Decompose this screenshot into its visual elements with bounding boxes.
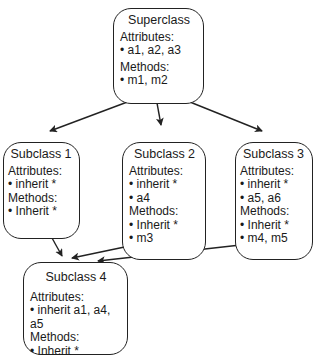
attribute-item: a4: [129, 192, 200, 206]
method-item: m4, m5: [240, 232, 307, 246]
methods-label: Methods:: [129, 205, 200, 219]
attribute-item: a5, a6: [240, 192, 307, 206]
node-title: Subclass 4: [30, 271, 122, 285]
methods-label: Methods:: [8, 192, 74, 206]
attributes-label: Attributes:: [8, 165, 74, 179]
node-title: Superclass: [120, 14, 198, 28]
node-superclass: Superclass Attributes: a1, a2, a3 Method…: [113, 8, 204, 104]
attributes-label: Attributes:: [129, 165, 200, 179]
method-item: Inherit *: [8, 205, 74, 219]
attributes-label: Attributes:: [120, 31, 198, 45]
attributes-label: Attributes:: [30, 291, 122, 305]
node-subclass1: Subclass 1 Attributes: inherit * Methods…: [3, 142, 80, 239]
attributes-label: Attributes:: [240, 165, 307, 179]
node-subclass3: Subclass 3 Attributes: inherit * a5, a6 …: [235, 142, 313, 260]
attribute-item: a1, a2, a3: [120, 44, 198, 58]
methods-label: Methods:: [30, 331, 122, 345]
node-subclass4: Subclass 4 Attributes: inherit a1, a4, a…: [23, 262, 128, 355]
method-item: m1, m2: [120, 74, 198, 88]
attribute-item: inherit *: [129, 178, 200, 192]
attribute-item: inherit *: [8, 178, 74, 192]
attribute-item: inherit a1, a4, a5: [30, 304, 122, 331]
edge-subclass1-subclass4: [52, 238, 62, 256]
method-item: Inherit *: [129, 219, 200, 233]
methods-label: Methods:: [120, 61, 198, 75]
edge-superclass-subclass3: [180, 98, 262, 131]
node-title: Subclass 3: [240, 148, 307, 162]
edge-superclass-subclass2: [157, 103, 161, 125]
methods-label: Methods:: [240, 205, 307, 219]
node-title: Subclass 2: [129, 148, 200, 162]
method-item: Inherit *: [30, 345, 122, 359]
method-item: m3: [129, 232, 200, 246]
method-item: Inherit *: [240, 219, 307, 233]
attribute-item: inherit *: [240, 178, 307, 192]
node-subclass2: Subclass 2 Attributes: inherit * a4 Meth…: [122, 142, 206, 260]
node-title: Subclass 1: [8, 148, 74, 162]
